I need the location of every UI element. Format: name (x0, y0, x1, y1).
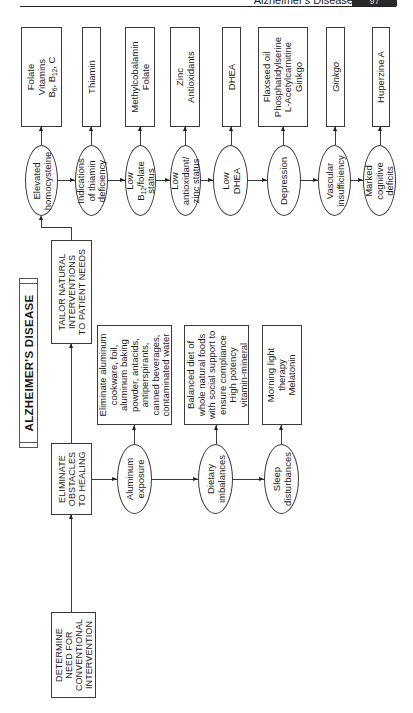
tailor-interventions-label: TAILOR NATURALINTERVENTIONSTO PATIENT NE… (57, 249, 87, 335)
intervention-folate-vitamins: Folate Vitamins B6, B12, C (21, 27, 62, 127)
b12-folate-text: B12/folate (135, 161, 146, 200)
intervention-zinc-antioxidants: ZincAntioxidants (170, 27, 200, 127)
arrow-up-icon (69, 514, 73, 519)
intervention-methylcobalamin: MethylcobalaminFolate (125, 27, 155, 127)
connector-eliminate-to-tailor (71, 344, 72, 443)
intervention-ginkgo: Ginkgo (326, 27, 345, 127)
intervention-sleep: Morning lighttherapy Melatonin (262, 325, 302, 425)
intervention-thiamin: Thiamin (82, 27, 101, 127)
intervention-depression: Flaxseed oilPhosphatidylserine L-Acetylc… (258, 27, 308, 127)
condition-low-b12-folate: Low B12/folate status (125, 145, 156, 216)
running-title: Alzheimer's Disease (254, 0, 353, 6)
condition-low-dhea: LowDHEA (213, 145, 248, 216)
eliminate-obstacles-label: ELIMINATEOBSTACLESTO HEALING (57, 451, 87, 506)
arrow-up-icon (214, 425, 218, 430)
determine-need-box: DETERMINENEED FOR CONVENTIONALINTERVENTI… (51, 612, 96, 698)
diagram-title: ALZHEIMER'S DISEASE (23, 295, 34, 432)
intervention-dietary: Balanced diet ofwhole natural foods with… (184, 325, 249, 425)
connector-determine-to-eliminate (71, 515, 72, 612)
condition-thiamin-deficiency: Indicationsof thiamindeficiency (75, 145, 108, 216)
condition-dietary-imbalances: Dietaryimbalances (198, 444, 233, 514)
condition-vascular-insufficiency: Vascularinsufficiency (318, 145, 351, 216)
tailor-interventions-box: TAILOR NATURALINTERVENTIONSTO PATIENT NE… (51, 240, 92, 344)
connector-tailor-elbow (41, 227, 71, 228)
connector-tailor-up (71, 227, 72, 240)
vitamin-b-text: B6, B12, C (47, 57, 58, 98)
condition-low-antioxidant-zinc: Lowantioxidant/zinc status (170, 145, 201, 216)
condition-elevated-homocysteine: Elevatedhomocysteine (25, 145, 58, 216)
condition-depression: Depression (267, 145, 301, 216)
determine-need-label: DETERMINENEED FOR CONVENTIONALINTERVENTI… (54, 619, 94, 691)
arrow-up-icon (132, 425, 136, 430)
eliminate-obstacles-box: ELIMINATEOBSTACLESTO HEALING (51, 443, 92, 515)
condition-marked-cognitive-deficits: Markedcognitivedeficits (363, 145, 396, 216)
condition-sleep-disturbances: Sleepdisturbances (264, 444, 299, 514)
intervention-aluminum: Eliminate aluminumcookware, foil, alumin… (97, 325, 172, 425)
page-number: 97 (352, 0, 397, 6)
arrow-up-icon (69, 343, 73, 348)
intervention-dhea: DHEA (222, 27, 241, 127)
header-rule (20, 6, 396, 7)
intervention-huperzine: Huperzine A (372, 27, 390, 127)
arrow-up-icon (279, 425, 283, 430)
diagram-title-box: ALZHEIMER'S DISEASE (19, 278, 38, 448)
condition-aluminum-exposure: Aluminumexposure (117, 444, 152, 514)
